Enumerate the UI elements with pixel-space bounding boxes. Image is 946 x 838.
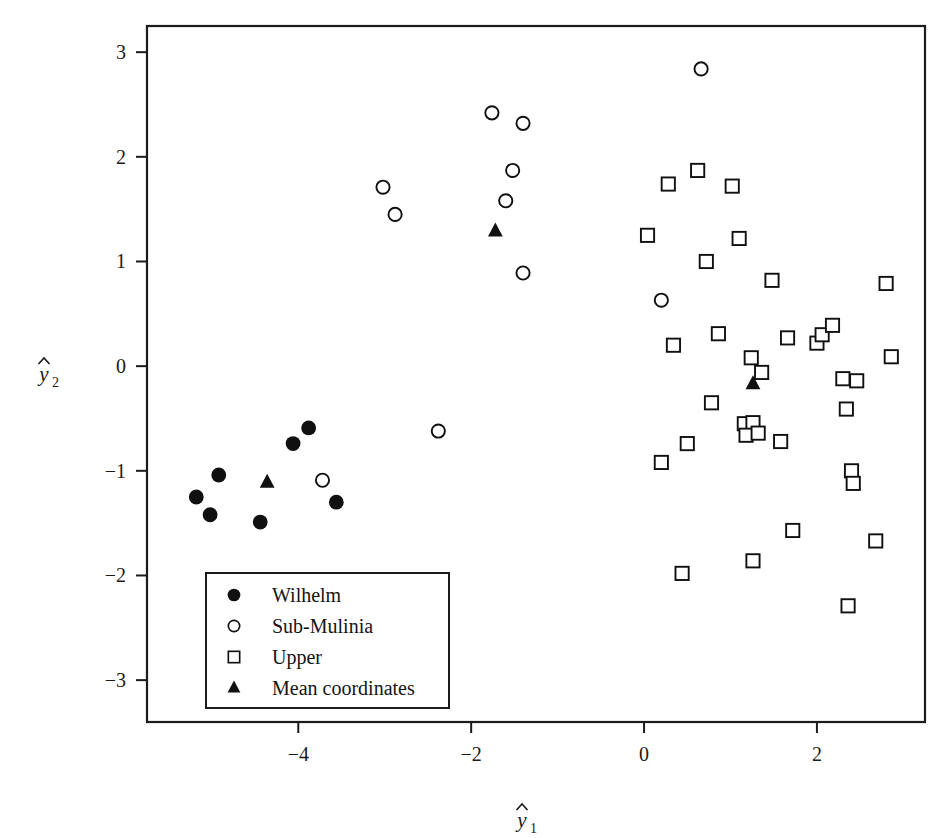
marker-open-square	[667, 339, 680, 352]
marker-filled-circle	[286, 436, 301, 451]
legend: WilhelmSub-MuliniaUpperMean coordinates	[206, 573, 449, 708]
marker-open-square	[691, 164, 704, 177]
marker-open-circle	[516, 117, 529, 130]
marker-open-square	[847, 477, 860, 490]
marker-open-square	[705, 396, 718, 409]
marker-filled-triangle	[488, 223, 503, 237]
series-upper	[641, 164, 898, 613]
marker-open-square	[869, 534, 882, 547]
svg-text:2: 2	[52, 375, 59, 390]
marker-open-square	[880, 277, 893, 290]
marker-open-square	[836, 372, 849, 385]
marker-open-square	[755, 366, 768, 379]
marker-filled-circle	[228, 589, 241, 602]
marker-open-square	[726, 180, 739, 193]
x-tick-label: −2	[461, 743, 482, 765]
marker-open-square	[765, 274, 778, 287]
marker-open-square	[655, 456, 668, 469]
y-tick-label: 3	[116, 41, 126, 63]
x-tick-label: 2	[812, 743, 822, 765]
marker-open-square	[745, 351, 758, 364]
legend-entry-label: Wilhelm	[272, 584, 342, 606]
legend-entry-label: Upper	[272, 646, 322, 669]
y-tick-label: −2	[105, 564, 126, 586]
plot-canvas: 3210−1−2−3−4−202y1y2WilhelmSub-MuliniaUp…	[0, 0, 946, 838]
marker-open-square	[840, 402, 853, 415]
legend-entry-label: Mean coordinates	[272, 677, 415, 699]
marker-filled-circle	[211, 468, 226, 483]
marker-open-square	[845, 464, 858, 477]
marker-open-circle	[228, 620, 239, 631]
marker-filled-circle	[189, 490, 204, 505]
marker-open-square	[885, 350, 898, 363]
marker-open-square	[850, 374, 863, 387]
y-tick-label: −3	[105, 669, 126, 691]
marker-filled-triangle	[260, 474, 275, 488]
marker-open-square	[733, 232, 746, 245]
marker-open-circle	[432, 424, 445, 437]
marker-open-circle	[388, 208, 401, 221]
x-tick-label: 0	[639, 743, 649, 765]
marker-open-square	[746, 554, 759, 567]
marker-open-square	[786, 524, 799, 537]
y-tick-label: 0	[116, 355, 126, 377]
marker-open-square	[228, 651, 239, 662]
marker-filled-circle	[329, 495, 344, 510]
marker-open-square	[774, 435, 787, 448]
marker-filled-circle	[203, 507, 218, 522]
marker-open-circle	[316, 474, 329, 487]
marker-open-square	[841, 599, 854, 612]
marker-open-square	[675, 567, 688, 580]
marker-open-square	[681, 437, 694, 450]
y-tick-label: −1	[105, 460, 126, 482]
x-axis-title: y1	[515, 804, 537, 836]
y-tick-label: 2	[116, 146, 126, 168]
series-sub-mulinia	[316, 62, 708, 487]
marker-filled-circle	[301, 421, 316, 436]
marker-open-circle	[376, 181, 389, 194]
marker-open-circle	[506, 164, 519, 177]
marker-open-circle	[655, 294, 668, 307]
y-tick-label: 1	[116, 250, 126, 272]
marker-open-square	[781, 331, 794, 344]
marker-open-square	[826, 319, 839, 332]
marker-open-square	[712, 327, 725, 340]
marker-open-circle	[695, 62, 708, 75]
scatter-plot-figure: 3210−1−2−3−4−202y1y2WilhelmSub-MuliniaUp…	[0, 0, 946, 838]
marker-open-square	[752, 427, 765, 440]
svg-text:y: y	[37, 362, 49, 386]
marker-filled-circle	[253, 515, 268, 530]
svg-text:y: y	[515, 808, 527, 832]
marker-open-square	[700, 255, 713, 268]
marker-open-circle	[485, 106, 498, 119]
x-tick-label: −4	[288, 743, 309, 765]
legend-entry-label: Sub-Mulinia	[272, 615, 373, 637]
marker-open-circle	[499, 194, 512, 207]
y-axis-title: y2	[37, 358, 59, 390]
marker-open-square	[662, 177, 675, 190]
svg-text:1: 1	[530, 821, 537, 836]
marker-open-square	[641, 229, 654, 242]
marker-open-circle	[516, 266, 529, 279]
